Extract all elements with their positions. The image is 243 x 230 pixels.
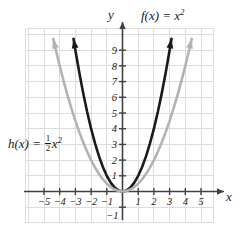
y-axis-arrowhead bbox=[119, 22, 125, 29]
x-tick-label: 3 bbox=[166, 196, 172, 207]
function-label-f-exponent: 2 bbox=[180, 7, 184, 17]
x-tick-label: 1 bbox=[136, 196, 141, 207]
y-tick-label: 2 bbox=[112, 155, 118, 166]
one-half-fraction: 12 bbox=[45, 134, 52, 154]
curve-h-left-arrowhead bbox=[52, 39, 59, 49]
y-tick-label: 7 bbox=[112, 76, 118, 87]
curve-h-right-arrowhead bbox=[186, 39, 193, 49]
y-tick-label: −1 bbox=[106, 210, 118, 221]
y-tick-label: 8 bbox=[112, 61, 118, 72]
y-tick-label: 6 bbox=[112, 92, 118, 103]
function-label-h-exponent: 2 bbox=[57, 135, 61, 145]
x-tick-label: −1 bbox=[101, 196, 113, 207]
axis-tick-labels: −5−4−3−2−112345−1123456789 bbox=[38, 45, 204, 221]
y-tick-label: 1 bbox=[112, 170, 117, 181]
x-tick-label: 4 bbox=[183, 196, 189, 207]
coordinate-plane-svg: −5−4−3−2−112345−1123456789 bbox=[0, 0, 243, 230]
x-tick-label: −4 bbox=[54, 196, 67, 207]
x-tick-label: −2 bbox=[85, 196, 98, 207]
y-tick-label: 3 bbox=[111, 139, 117, 150]
y-tick-label: 4 bbox=[112, 123, 118, 134]
y-tick-label: 5 bbox=[112, 108, 117, 119]
parabola-graph-figure: −5−4−3−2−112345−1123456789 f(x) = x2 h(x… bbox=[0, 0, 243, 230]
y-axis-label: y bbox=[108, 8, 114, 21]
function-label-f-prefix: f(x) = x bbox=[141, 8, 180, 23]
function-label-f: f(x) = x2 bbox=[141, 8, 185, 22]
x-axis-arrowhead bbox=[217, 188, 224, 194]
x-axis-label: x bbox=[226, 190, 232, 203]
y-tick-label: 9 bbox=[112, 45, 118, 56]
fraction-denominator: 2 bbox=[45, 144, 52, 153]
function-label-h-prefix: h(x) = bbox=[8, 136, 44, 151]
x-tick-label: 2 bbox=[151, 196, 157, 207]
function-label-h: h(x) = 12x2 bbox=[8, 135, 62, 155]
x-tick-label: −5 bbox=[38, 196, 50, 207]
x-tick-label: 5 bbox=[198, 196, 203, 207]
x-tick-label: −3 bbox=[69, 196, 81, 207]
